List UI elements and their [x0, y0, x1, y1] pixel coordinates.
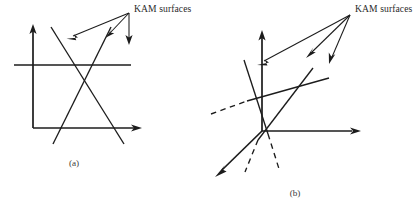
panel-b-annotation-arrows — [257, 15, 350, 66]
panel-b-depth-axis — [215, 131, 262, 177]
panel-a-vertical-axis — [29, 24, 36, 128]
panel-a-kam-label: KAM surfaces — [134, 3, 192, 14]
panel-b-hidden-line-3 — [211, 101, 247, 114]
panel-b: KAM surfaces (b) — [211, 3, 413, 198]
panel-b-horizontal-axis — [262, 127, 361, 134]
panel-a-horizontal-axis — [33, 124, 142, 131]
panel-b-caption: (b) — [290, 188, 301, 198]
panel-b-kam-label: KAM surfaces — [355, 3, 413, 14]
panel-b-kam-surface-line-1 — [244, 60, 268, 134]
panel-a-annotation-arrows — [67, 13, 133, 45]
figure-container: KAM surfaces (a) — [0, 0, 417, 208]
panel-a: KAM surfaces (a) — [14, 3, 192, 168]
panel-b-kam-surface-line-2 — [258, 68, 313, 140]
panel-b-hidden-line-1 — [268, 134, 280, 172]
figure-canvas: KAM surfaces (a) — [0, 0, 417, 208]
panel-b-kam-surface-line-3 — [247, 78, 329, 101]
panel-a-caption: (a) — [69, 158, 79, 168]
